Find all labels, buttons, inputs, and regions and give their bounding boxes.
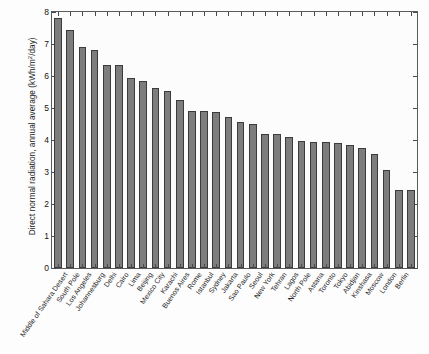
- x-axis-tick-mark-top: [180, 12, 181, 16]
- x-axis-tick-mark-top: [143, 12, 144, 16]
- y-axis-tick-mark-right: [413, 44, 417, 45]
- x-axis-tick-mark-bottom: [265, 264, 266, 268]
- plot-area: 012345678: [51, 11, 418, 269]
- x-axis-tick-mark-bottom: [70, 264, 71, 268]
- x-axis-tick-mark-top: [168, 12, 169, 16]
- bar: [298, 141, 306, 268]
- bar: [139, 81, 147, 268]
- x-axis-tick-mark-top: [277, 12, 278, 16]
- bar: [164, 91, 172, 268]
- bar: [54, 18, 62, 268]
- x-axis-tick-mark-top: [326, 12, 327, 16]
- y-axis-tick-label: 4: [29, 135, 49, 146]
- bar: [407, 190, 415, 268]
- x-axis-tick-mark-top: [107, 12, 108, 16]
- bar: [127, 78, 135, 268]
- x-axis-tick-mark-bottom: [387, 264, 388, 268]
- x-axis-tick-mark-bottom: [131, 264, 132, 268]
- bar: [200, 111, 208, 268]
- y-axis-tick-mark-left: [52, 12, 56, 13]
- y-axis-tick-label: 1: [29, 231, 49, 242]
- y-axis-tick-label: 6: [29, 71, 49, 82]
- bar: [322, 142, 330, 268]
- bar: [310, 142, 318, 268]
- x-axis-tick-mark-bottom: [289, 264, 290, 268]
- chart-figure: Direct normal radiation, annual average …: [0, 0, 429, 354]
- bar: [66, 30, 74, 268]
- x-axis-tick-mark-bottom: [338, 264, 339, 268]
- bar: [79, 47, 87, 268]
- bar: [371, 154, 379, 268]
- x-axis-tick-mark-bottom: [228, 264, 229, 268]
- x-axis-tick-mark-top: [155, 12, 156, 16]
- plot-inner: 012345678: [52, 12, 417, 268]
- y-axis-tick-mark-right: [413, 108, 417, 109]
- bar: [261, 134, 269, 268]
- x-axis-tick-mark-bottom: [107, 264, 108, 268]
- x-axis-tick-mark-top: [338, 12, 339, 16]
- bar: [285, 137, 293, 268]
- y-axis-tick-label: 5: [29, 103, 49, 114]
- x-axis-tick-mark-top: [362, 12, 363, 16]
- x-axis-tick-mark-bottom: [180, 264, 181, 268]
- x-axis-tick-mark-bottom: [82, 264, 83, 268]
- bar: [91, 50, 99, 268]
- x-axis-tick-mark-top: [411, 12, 412, 16]
- x-axis-tick-mark-bottom: [204, 264, 205, 268]
- bar: [334, 143, 342, 268]
- bar: [115, 65, 123, 268]
- x-axis-tick-mark-top: [387, 12, 388, 16]
- y-axis-tick-label: 7: [29, 39, 49, 50]
- x-axis-tick-mark-bottom: [95, 264, 96, 268]
- bar: [152, 88, 160, 268]
- y-axis-tick-mark-right: [413, 76, 417, 77]
- bar: [395, 190, 403, 268]
- y-axis-tick-label: 8: [29, 7, 49, 18]
- y-axis-tick-label: 2: [29, 199, 49, 210]
- x-axis-tick-mark-bottom: [216, 264, 217, 268]
- x-axis-tick-mark-bottom: [399, 264, 400, 268]
- x-axis-tick-mark-bottom: [192, 264, 193, 268]
- x-axis-tick-mark-top: [131, 12, 132, 16]
- bar: [212, 112, 220, 268]
- x-axis-tick-mark-top: [253, 12, 254, 16]
- bar: [358, 148, 366, 268]
- bar: [273, 134, 281, 268]
- bar: [249, 124, 257, 268]
- y-axis-tick-mark-right: [413, 12, 417, 13]
- x-axis-tick-mark-top: [265, 12, 266, 16]
- x-axis-tick-mark-bottom: [119, 264, 120, 268]
- y-axis-tick-mark-right: [413, 140, 417, 141]
- bar: [237, 122, 245, 268]
- bar: [346, 145, 354, 268]
- x-axis-tick-mark-top: [95, 12, 96, 16]
- x-axis-tick-mark-bottom: [326, 264, 327, 268]
- x-axis-tick-mark-top: [350, 12, 351, 16]
- x-axis-tick-mark-top: [119, 12, 120, 16]
- x-axis-tick-mark-bottom: [411, 264, 412, 268]
- x-axis-tick-mark-top: [289, 12, 290, 16]
- x-axis-tick-mark-bottom: [241, 264, 242, 268]
- x-axis-tick-mark-top: [192, 12, 193, 16]
- x-axis-tick-mark-top: [399, 12, 400, 16]
- bar: [383, 170, 391, 268]
- bar: [176, 100, 184, 268]
- x-axis-tick-mark-bottom: [301, 264, 302, 268]
- x-axis-tick-mark-bottom: [155, 264, 156, 268]
- x-axis-tick-mark-bottom: [314, 264, 315, 268]
- x-axis-tick-mark-bottom: [143, 264, 144, 268]
- x-axis-tick-mark-bottom: [253, 264, 254, 268]
- x-axis-tick-mark-top: [204, 12, 205, 16]
- x-axis-tick-mark-bottom: [374, 264, 375, 268]
- x-axis-tick-mark-bottom: [58, 264, 59, 268]
- x-axis-tick-labels: Middle of Sahara DesertSouth PoleLos Ang…: [51, 271, 418, 354]
- x-axis-tick-mark-bottom: [277, 264, 278, 268]
- x-axis-tick-mark-top: [228, 12, 229, 16]
- x-axis-tick-mark-bottom: [168, 264, 169, 268]
- x-axis-tick-mark-top: [70, 12, 71, 16]
- x-axis-tick-mark-top: [58, 12, 59, 16]
- y-axis-tick-label: 3: [29, 167, 49, 178]
- x-axis-tick-mark-top: [241, 12, 242, 16]
- bar: [103, 65, 111, 268]
- x-axis-tick-mark-top: [314, 12, 315, 16]
